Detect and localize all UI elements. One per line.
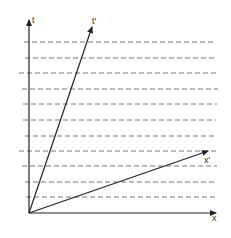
diagram-canvas <box>0 0 231 238</box>
t-prime-axis-label: t' <box>92 17 96 26</box>
x-prime-axis-label: x' <box>204 156 210 165</box>
t-axis-label: t <box>32 16 35 25</box>
simultaneity-lines <box>19 42 218 197</box>
x-axis-label: x <box>212 214 217 223</box>
spacetime-diagram: t x t' x' <box>0 0 231 238</box>
